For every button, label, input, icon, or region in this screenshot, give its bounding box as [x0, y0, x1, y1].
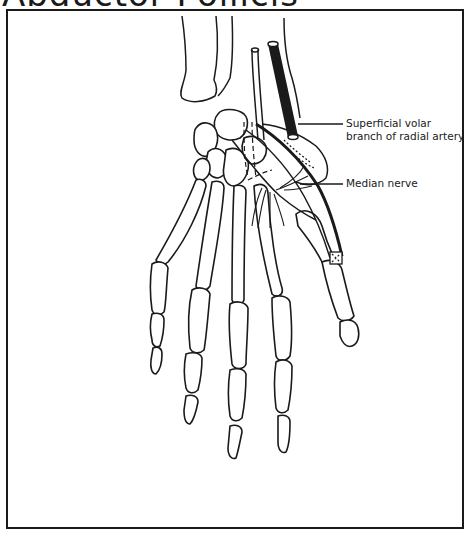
artery-label-line2: branch of radial artery [346, 130, 464, 143]
nerve-label: Median nerve [346, 177, 418, 190]
finger-index [254, 184, 292, 452]
ulna-outline [181, 16, 218, 102]
radius-outline [218, 16, 233, 96]
radial-artery [268, 42, 298, 140]
hand-anatomy-drawing [0, 0, 475, 538]
thumb [296, 211, 359, 347]
finger-middle [228, 185, 248, 458]
artery-label-line1: Superficial volar [346, 117, 464, 130]
artery-label: Superficial volar branch of radial arter… [346, 117, 464, 143]
